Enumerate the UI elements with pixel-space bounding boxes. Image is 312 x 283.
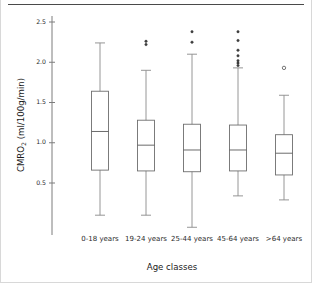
outlier-point	[191, 41, 194, 44]
outlier-point	[237, 55, 240, 58]
x-axis-title: Age classes	[147, 262, 198, 272]
y-axis-tick-label: 1.5	[36, 98, 46, 105]
y-axis-tick-label: 0.5	[36, 179, 46, 186]
outlier-point	[145, 40, 148, 43]
x-axis-category-label: 25-44 years	[171, 235, 213, 243]
boxplot-series	[92, 30, 293, 227]
outlier-point	[282, 66, 285, 69]
x-axis-category-label: 45-64 years	[217, 235, 259, 243]
figure-container: 0.51.01.52.02.5 0-18 years19-24 years25-…	[0, 0, 312, 283]
boxplot-group	[138, 40, 155, 215]
iqr-box	[230, 125, 247, 171]
outlier-point	[237, 49, 240, 52]
x-axis-category-labels: 0-18 years19-24 years25-44 years45-64 ye…	[81, 235, 302, 243]
y-axis-title-main: CMRO	[16, 146, 26, 172]
outlier-point	[237, 62, 240, 65]
outlier-point	[237, 39, 240, 42]
outlier-point	[191, 30, 194, 33]
outlier-point	[237, 59, 240, 62]
outlier-point	[145, 43, 148, 46]
boxplot-group	[276, 66, 293, 200]
boxplot-chart: 0.51.01.52.02.5 0-18 years19-24 years25-…	[0, 0, 312, 283]
iqr-box	[184, 124, 201, 171]
outlier-point	[237, 64, 240, 67]
y-axis-title-units: (ml/100g/min)	[16, 78, 26, 142]
y-axis-tick-label: 2.0	[36, 58, 46, 65]
iqr-box	[92, 91, 109, 170]
outlier-point	[237, 30, 240, 33]
x-axis-category-label: >64 years	[266, 235, 303, 243]
x-axis-category-label: 19-24 years	[125, 235, 167, 243]
y-axis-title: CMRO2 (ml/100g/min)	[16, 78, 27, 172]
y-axis-tick-label: 2.5	[36, 18, 46, 25]
y-axis-tick-label: 1.0	[36, 138, 46, 145]
boxplot-group	[184, 30, 201, 227]
iqr-box	[276, 135, 293, 175]
boxplot-group	[230, 30, 247, 195]
boxplot-group	[92, 43, 109, 215]
x-axis-category-label: 0-18 years	[81, 235, 119, 243]
